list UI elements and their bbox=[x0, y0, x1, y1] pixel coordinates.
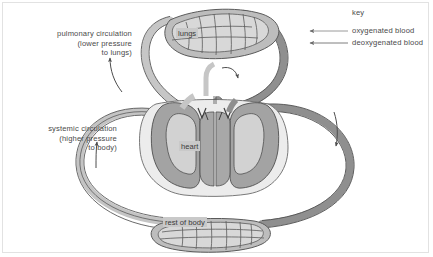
key-arrows bbox=[310, 31, 348, 43]
lungs-label: lungs bbox=[176, 28, 198, 38]
heart-label: heart bbox=[179, 141, 200, 151]
pulmonary-outflow-arrow bbox=[110, 58, 122, 92]
key-entry-oxygenated-label: oxygenated blood bbox=[352, 26, 414, 36]
circulation-diagram-page: key oxygenated blood deoxygenated blood … bbox=[0, 0, 433, 257]
key-entry-deoxygenated-label: deoxygenated blood bbox=[352, 38, 423, 48]
pulmonary-circulation-label: pulmonary circulation (lower pressure to… bbox=[22, 29, 132, 58]
rest-of-body-label: rest of body bbox=[163, 217, 207, 227]
systemic-circulation-label: systemic circulation (higher pressure to… bbox=[12, 124, 117, 153]
heart-organ bbox=[140, 96, 288, 196]
key-title: key bbox=[352, 8, 364, 18]
pulmonary-inflow-arrow bbox=[222, 67, 238, 78]
